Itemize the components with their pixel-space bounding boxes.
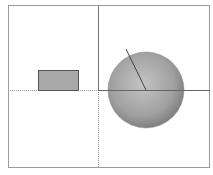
diagram-canvas xyxy=(0,0,213,175)
rectangle-shape xyxy=(39,71,79,91)
